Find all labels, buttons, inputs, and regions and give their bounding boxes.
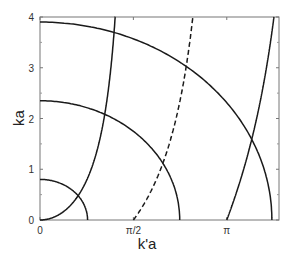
y-tick-label: 4: [28, 12, 34, 23]
x-axis-label: k'a: [138, 235, 157, 252]
y-tick-label: 0: [28, 215, 34, 226]
plot-frame: [40, 17, 279, 220]
curve-line: [133, 17, 193, 220]
curve-line: [40, 17, 115, 220]
curve-line: [227, 17, 274, 220]
axis-ticks: 0π/2π01234: [28, 12, 279, 236]
curve-line: [40, 101, 180, 220]
x-tick-label: 0: [37, 225, 43, 236]
plot-curves: [40, 17, 274, 220]
chart: 0π/2π01234 k'a ka: [0, 0, 293, 257]
y-axis-label: ka: [10, 109, 27, 126]
y-tick-label: 2: [28, 114, 34, 125]
curve-line: [40, 179, 88, 220]
x-tick-label: π: [223, 225, 230, 236]
y-tick-label: 3: [28, 63, 34, 74]
y-tick-label: 1: [28, 164, 34, 175]
